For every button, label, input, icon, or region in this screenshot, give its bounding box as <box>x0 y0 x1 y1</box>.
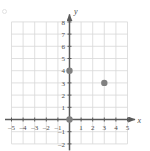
y-tick-label: –2 <box>57 141 66 149</box>
y-tick-label: 1 <box>62 104 66 112</box>
x-tick-label: 4 <box>114 124 118 132</box>
y-tick-label: 2 <box>62 92 66 100</box>
x-tick-label: –4 <box>19 124 28 132</box>
y-tick-label: 8 <box>62 19 66 27</box>
point-origin <box>66 116 72 122</box>
y-tick-label: –1 <box>57 128 66 136</box>
x-tick-label: –5 <box>7 124 16 132</box>
point-three-three <box>101 80 107 86</box>
y-tick-label: 4 <box>62 67 66 75</box>
x-tick-label: –3 <box>30 124 39 132</box>
x-tick-label: –2 <box>42 124 51 132</box>
x-axis-tick-labels: –5–4–3–2–112345 <box>7 124 130 132</box>
x-tick-label: 1 <box>79 124 83 132</box>
y-tick-label: 3 <box>62 80 66 88</box>
point-y-intercept <box>66 68 72 74</box>
y-tick-label: 5 <box>62 55 66 63</box>
cartesian-graph: –5–4–3–2–112345 87654321–1–2 xy <box>0 0 150 151</box>
x-tick-label: 5 <box>126 124 130 132</box>
x-tick-label: 3 <box>103 124 107 132</box>
x-tick-label: 2 <box>91 124 95 132</box>
x-axis-name-label: x <box>137 116 142 125</box>
axis-name-labels: xy <box>73 7 142 125</box>
y-axis-name-label: y <box>73 7 78 16</box>
y-tick-label: 6 <box>62 43 66 51</box>
y-tick-label: 7 <box>62 31 66 39</box>
plot-area: –5–4–3–2–112345 87654321–1–2 xy <box>0 0 150 151</box>
coordinate-plane-figure: –5–4–3–2–112345 87654321–1–2 xy <box>0 0 150 151</box>
